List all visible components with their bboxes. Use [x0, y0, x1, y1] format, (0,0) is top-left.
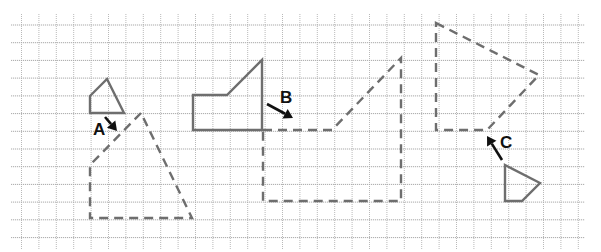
shapes-layer: ABC: [90, 23, 540, 218]
shape-b-image: [263, 58, 401, 201]
shape-c-original: [505, 165, 540, 201]
shape-b-original: [193, 60, 262, 130]
shape-label-c: C: [500, 133, 512, 152]
shape-label-b: B: [280, 88, 292, 107]
translation-diagram: ABC: [0, 0, 601, 252]
shape-label-a: A: [93, 120, 105, 139]
shape-group-b: B: [193, 58, 401, 201]
shape-group-c: C: [436, 23, 540, 201]
